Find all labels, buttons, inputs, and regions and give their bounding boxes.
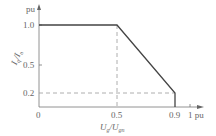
x-tick-label-05: 0.5: [111, 110, 123, 120]
x-tick-label-09: 0.9: [169, 110, 181, 120]
y-axis-label: Iq/In: [9, 49, 25, 67]
y-axis-arrow-icon: [37, 4, 41, 10]
characteristic-curve: [39, 25, 175, 107]
x-axis-label: Ug/Ugn: [100, 122, 125, 133]
origin-label: 0: [36, 110, 41, 120]
y-tick-label-1: 1.0: [23, 20, 35, 30]
y-tick-label-05: 0.5: [23, 60, 35, 70]
x-unit-label: 1 pu: [188, 110, 204, 120]
x-axis-arrow-icon: [197, 105, 204, 109]
chart: pu 1.0 0.5 0.2 0 0.5 0.9 1 pu Iq/In Ug/U…: [0, 0, 216, 136]
y-tick-label-02: 0.2: [23, 88, 34, 98]
y-unit-label: pu: [26, 4, 36, 14]
svg-text:Iq/In: Iq/In: [9, 49, 25, 67]
